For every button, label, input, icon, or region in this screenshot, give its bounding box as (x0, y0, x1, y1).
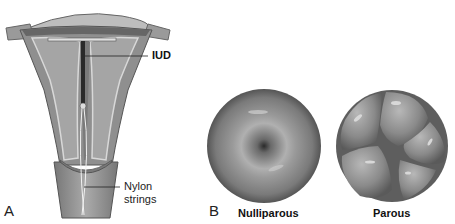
parous-cervix (336, 90, 448, 202)
panel-b-letter: B (209, 202, 219, 219)
iud-arms (48, 38, 116, 41)
panel-a-letter: A (4, 202, 14, 219)
nylon-strings-line1: Nylon (124, 180, 156, 193)
illustration-canvas (0, 0, 455, 224)
iud-label: IUD (152, 49, 171, 61)
nulliparous-cervix (207, 89, 321, 203)
nulliparous-label: Nulliparous (238, 207, 299, 219)
nylon-strings-label: Nylon strings (124, 180, 156, 206)
nylon-strings-line2: strings (124, 193, 156, 206)
parous-label: Parous (373, 207, 410, 219)
iud-stem (81, 41, 85, 103)
